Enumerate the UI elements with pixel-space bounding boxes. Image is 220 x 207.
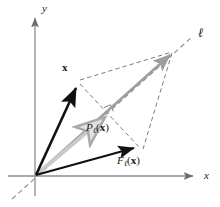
reflection-label: Fℓ(x) (117, 155, 140, 168)
projection-label: Pℓ(x) (86, 122, 109, 135)
vector-x-shaft (36, 88, 76, 175)
vector-x-label: x (62, 62, 68, 73)
projection-close-paren: ) (105, 121, 109, 133)
y-axis-label: y (42, 3, 47, 14)
x-axis-label: x (204, 170, 209, 181)
projection-reflection-figure: y x ℓ x Pℓ(x) Fℓ(x) (0, 0, 220, 207)
vector-x (36, 88, 76, 175)
figure-canvas (0, 0, 220, 207)
coordinate-axes (8, 18, 193, 196)
dashed-x-to-f-tip (80, 84, 140, 148)
line-ell-label: ℓ (198, 26, 203, 39)
reflection-close-paren: ) (136, 154, 140, 166)
projection-fn-text: P (86, 121, 93, 133)
reflection-fn-text: F (117, 154, 124, 166)
